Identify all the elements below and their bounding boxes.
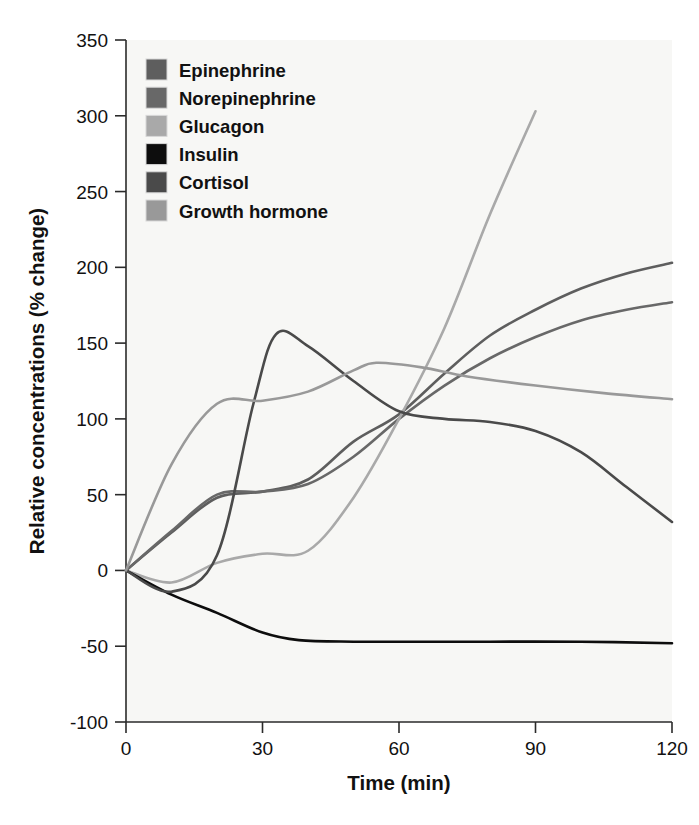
legend-swatch-norepinephrine	[146, 87, 167, 108]
plot-background	[126, 40, 672, 722]
y-axis-ticks	[115, 40, 126, 722]
y-tick-label: 50	[87, 485, 108, 506]
chart-figure: -100-50050100150200250300350 0306090120 …	[0, 0, 699, 825]
x-tick-label: 0	[121, 738, 132, 759]
y-axis-tick-labels: -100-50050100150200250300350	[70, 30, 108, 733]
legend-swatch-glucagon	[146, 115, 167, 136]
x-tick-label: 120	[656, 738, 688, 759]
legend-swatch-insulin	[146, 144, 167, 165]
line-chart-canvas: -100-50050100150200250300350 0306090120 …	[0, 0, 699, 825]
y-tick-label: 150	[76, 333, 108, 354]
legend-swatch-epinephrine	[146, 59, 167, 80]
legend-label-glucagon: Glucagon	[179, 116, 264, 137]
x-tick-label: 90	[525, 738, 546, 759]
y-tick-label: 250	[76, 182, 108, 203]
y-tick-label: -100	[70, 712, 108, 733]
x-axis-tick-labels: 0306090120	[121, 738, 688, 759]
y-tick-label: 0	[97, 560, 108, 581]
legend-label-insulin: Insulin	[179, 144, 239, 165]
y-axis-title: Relative concentrations (% change)	[25, 208, 48, 554]
y-tick-label: 350	[76, 30, 108, 51]
y-tick-label: 100	[76, 409, 108, 430]
legend-swatch-cortisol	[146, 172, 167, 193]
x-tick-label: 60	[388, 738, 409, 759]
x-axis-title: Time (min)	[347, 771, 450, 794]
x-axis-ticks	[126, 722, 672, 733]
legend-label-growth-hormone: Growth hormone	[179, 201, 328, 222]
legend-label-norepinephrine: Norepinephrine	[179, 88, 316, 109]
y-tick-label: 300	[76, 106, 108, 127]
y-tick-label: 200	[76, 257, 108, 278]
x-tick-label: 30	[252, 738, 273, 759]
legend-swatch-growth-hormone	[146, 200, 167, 221]
legend-label-cortisol: Cortisol	[179, 172, 249, 193]
y-tick-label: -50	[81, 636, 108, 657]
legend-label-epinephrine: Epinephrine	[179, 60, 286, 81]
